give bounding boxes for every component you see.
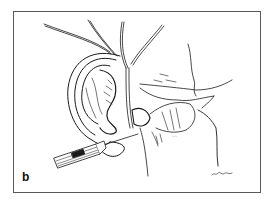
artist-signature (212, 173, 232, 175)
ear-outline (68, 53, 120, 144)
syringe (54, 141, 106, 168)
deep-tissue (132, 102, 218, 176)
needle (100, 134, 138, 146)
panel-label: b (22, 171, 29, 183)
skin-flap (140, 44, 232, 108)
annotation-label: ····· (172, 135, 177, 139)
ear-syringe-illustration: ····· (0, 0, 279, 201)
